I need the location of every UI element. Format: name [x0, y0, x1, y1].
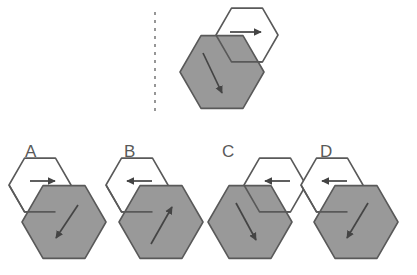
- option-b-label: B: [124, 143, 135, 160]
- option-b-figure[interactable]: [106, 158, 203, 258]
- option-a-label: A: [25, 143, 36, 160]
- option-a-figure[interactable]: [9, 158, 106, 258]
- option-d-label: D: [320, 143, 332, 160]
- puzzle-container: A B C D: [0, 0, 417, 275]
- option-c-figure[interactable]: [208, 158, 306, 258]
- puzzle-graphics: [0, 0, 417, 275]
- reference-figure: [180, 8, 278, 108]
- option-c-label: C: [222, 143, 234, 160]
- option-d-figure[interactable]: [301, 158, 398, 258]
